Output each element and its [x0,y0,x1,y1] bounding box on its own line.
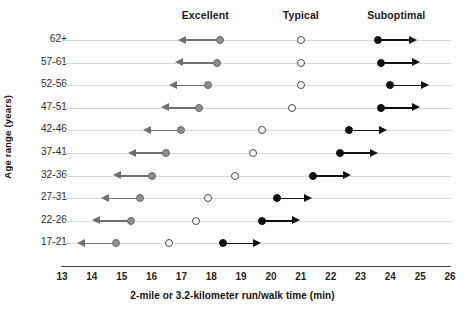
x-axis-line [61,266,451,267]
excellent-arrow-shaft [119,175,152,177]
suboptimal-marker [377,104,385,112]
x-axis-title: 2-mile or 3.2-kilometer run/walk time (m… [0,290,465,301]
excellent-arrow-head [169,81,177,89]
typical-marker [297,81,305,89]
suboptimal-arrow-shaft [381,107,414,109]
excellent-arrow-head [175,58,183,66]
excellent-arrow-shaft [181,62,217,64]
excellent-marker [216,36,224,44]
y-tick-label: 32-36 [41,169,67,180]
chart-row: 57-61 [0,52,465,75]
chart-row: 27-31 [0,187,465,210]
suboptimal-marker [336,149,344,157]
x-tick-label: 26 [444,271,455,282]
suboptimal-arrow-shaft [340,152,373,154]
x-tick-label: 19 [236,271,247,282]
excellent-marker [112,239,120,247]
chart-row: 47-51 [0,97,465,120]
suboptimal-marker [273,194,281,202]
y-tick-label: 37-41 [41,146,67,157]
suboptimal-marker [374,36,382,44]
typical-marker [288,104,296,112]
suboptimal-marker [377,59,385,67]
suboptimal-arrow-head [343,171,351,179]
x-tick-label: 13 [56,271,67,282]
excellent-arrow-head [77,239,85,247]
excellent-arrow-head [178,36,186,44]
excellent-arrow-shaft [83,243,116,245]
x-tick-label: 22 [325,271,336,282]
x-tick-label: 25 [415,271,426,282]
run-walk-time-chart: Excellent Typical Suboptimal Age range (… [0,0,465,314]
typical-marker [192,217,200,225]
y-tick-label: 42-46 [41,123,67,134]
suboptimal-arrow-head [412,103,420,111]
excellent-arrow-head [128,149,136,157]
x-tick-label: 20 [265,271,276,282]
chart-row: 37-41 [0,142,465,165]
y-tick-label: 17-21 [41,236,67,247]
typical-marker [204,194,212,202]
excellent-marker [195,104,203,112]
suboptimal-arrow-shaft [378,39,411,41]
typical-marker [297,59,305,67]
excellent-arrow-shaft [107,198,140,200]
typical-marker [165,239,173,247]
suboptimal-marker [345,126,353,134]
excellent-arrow-shaft [98,220,131,222]
typical-marker [258,126,266,134]
x-tick-label: 24 [385,271,396,282]
suboptimal-arrow-head [253,239,261,247]
excellent-arrow-head [101,194,109,202]
suboptimal-arrow-head [304,194,312,202]
excellent-arrow-head [113,171,121,179]
x-tick-label: 18 [206,271,217,282]
suboptimal-arrow-head [370,149,378,157]
excellent-marker [213,59,221,67]
suboptimal-arrow-shaft [277,198,307,200]
y-tick-label: 47-51 [41,101,67,112]
suboptimal-arrow-shaft [262,220,295,222]
excellent-marker [127,217,135,225]
chart-row: 22-26 [0,210,465,233]
row-baseline [64,153,451,154]
y-tick-label: 57-61 [41,56,67,67]
suboptimal-arrow-shaft [381,62,414,64]
chart-row: 42-46 [0,119,465,142]
suboptimal-marker [258,217,266,225]
x-tick-label: 21 [295,271,306,282]
typical-marker [297,36,305,44]
x-tick-label: 15 [116,271,127,282]
y-tick-label: 62+ [50,33,67,44]
chart-row: 52-56 [0,74,465,97]
suboptimal-arrow-shaft [223,243,256,245]
excellent-marker [136,194,144,202]
suboptimal-arrow-head [421,81,429,89]
x-tick-label: 17 [176,271,187,282]
column-header-excellent: Excellent [182,9,229,21]
x-tick-label: 16 [146,271,157,282]
suboptimal-arrow-shaft [349,130,382,132]
excellent-arrow-head [143,126,151,134]
suboptimal-arrow-head [379,126,387,134]
typical-marker [249,149,257,157]
x-tick-label: 14 [86,271,97,282]
suboptimal-arrow-head [409,36,417,44]
suboptimal-arrow-shaft [313,175,346,177]
suboptimal-marker [219,239,227,247]
y-tick-label: 27-31 [41,191,67,202]
suboptimal-marker [386,81,394,89]
suboptimal-marker [309,172,317,180]
suboptimal-arrow-head [292,216,300,224]
excellent-arrow-head [161,103,169,111]
column-header-suboptimal: Suboptimal [367,9,425,21]
x-tick-label: 23 [355,271,366,282]
excellent-marker [148,172,156,180]
excellent-arrow-shaft [184,39,220,41]
suboptimal-arrow-shaft [390,85,423,87]
excellent-marker [177,126,185,134]
excellent-marker [204,81,212,89]
chart-row: 62+ [0,29,465,52]
suboptimal-arrow-head [412,58,420,66]
excellent-marker [162,149,170,157]
